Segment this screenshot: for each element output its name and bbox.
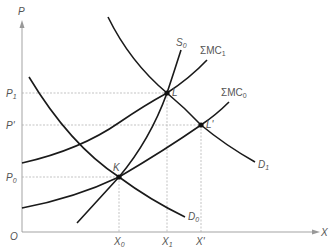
- point-label-l: L: [172, 87, 178, 98]
- label-smc1: ΣMC1: [200, 45, 226, 57]
- economics-diagram: P X O P1 P' P0 X0 X1 X' S0 ΣMC1 ΣMC0 D1 …: [0, 0, 332, 250]
- curve-d0: [29, 77, 185, 217]
- point-l: [164, 90, 169, 95]
- label-d1: D1: [258, 159, 269, 171]
- label-smc0: ΣMC0: [221, 87, 247, 99]
- label-s0: S0: [176, 37, 187, 49]
- point-k: [116, 174, 121, 179]
- curve-s0: [77, 50, 181, 223]
- price-label-p0: P0: [6, 172, 17, 184]
- qty-label-x1: X1: [161, 236, 173, 248]
- point-label-lprime: L': [206, 119, 215, 130]
- origin-label: O: [10, 231, 18, 242]
- qty-label-x0: X0: [113, 236, 125, 248]
- price-label-pprime: P': [6, 120, 16, 131]
- point-label-k: K: [113, 162, 121, 173]
- y-axis-label: P: [18, 6, 25, 17]
- x-axis-arrow-icon: [312, 230, 320, 235]
- price-label-p1: P1: [6, 88, 17, 100]
- label-d0: D0: [188, 211, 199, 223]
- curve-smc1: [22, 60, 207, 163]
- qty-label-xprime: X': [195, 236, 206, 247]
- point-lprime: [198, 122, 203, 127]
- y-axis-arrow-icon: [20, 20, 25, 28]
- x-axis-label: X: [320, 227, 328, 238]
